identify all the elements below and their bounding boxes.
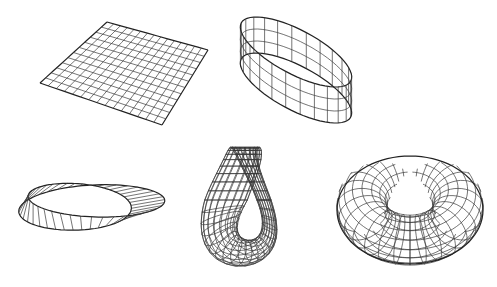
surfaces-diagram <box>0 0 497 287</box>
klein-bottle-surface <box>201 147 277 266</box>
wireframe-figure <box>0 0 497 287</box>
cylinder-surface <box>240 17 351 123</box>
plane-surface <box>40 22 208 125</box>
mobius-strip-surface <box>19 183 165 230</box>
torus-surface <box>337 156 483 265</box>
